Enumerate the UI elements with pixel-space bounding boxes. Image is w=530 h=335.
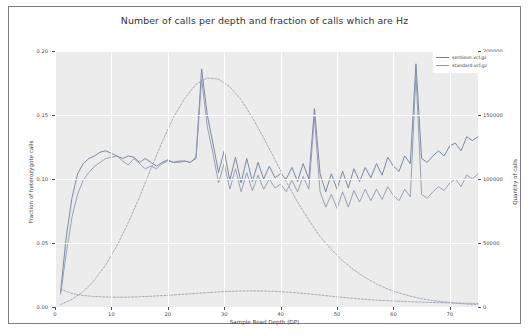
- y-tick-label-right: 150000: [483, 112, 503, 118]
- legend-line-icon: [436, 65, 449, 66]
- x-tick-label: 30: [221, 311, 228, 317]
- y-tick-label-left: 0.00: [36, 304, 48, 310]
- chart-figure: Number of calls per depth and fraction o…: [0, 0, 530, 335]
- y-tick-mark-right: [478, 243, 481, 244]
- x-tick-mark: [55, 307, 56, 310]
- gridline-horizontal: [55, 307, 478, 308]
- y-tick-mark-left: [52, 179, 55, 180]
- legend-item: standard.vcf.gz: [436, 62, 515, 69]
- y-tick-label-left: 0.20: [36, 48, 48, 54]
- x-tick-mark: [450, 307, 451, 310]
- legend-label: sentieon.vcf.gz: [452, 55, 487, 60]
- y-tick-label-left: 0.10: [36, 176, 48, 182]
- x-tick-mark: [393, 307, 394, 310]
- legend-label: standard.vcf.gz: [452, 63, 487, 68]
- y-axis-label-left: Fraction of heterozygote calls: [28, 122, 34, 242]
- y-tick-label-left: 0.15: [36, 112, 48, 118]
- y-tick-mark-left: [52, 115, 55, 116]
- legend-line-icon: [436, 57, 449, 58]
- figure-frame: Number of calls per depth and fraction o…: [8, 6, 521, 324]
- x-axis-label: Sample Read Depth (DP): [9, 319, 520, 325]
- x-tick-mark: [224, 307, 225, 310]
- x-tick-mark: [111, 307, 112, 310]
- y-tick-mark-right: [478, 307, 481, 308]
- x-tick-label: 20: [164, 311, 171, 317]
- x-tick-mark: [281, 307, 282, 310]
- x-tick-label: 70: [446, 311, 453, 317]
- y-tick-mark-left: [52, 307, 55, 308]
- x-tick-mark: [337, 307, 338, 310]
- y-axis-label-right: Quantity of calls: [512, 122, 518, 242]
- chart-legend: sentieon.vcf.gz standard.vcf.gz: [433, 52, 517, 73]
- legend-item: sentieon.vcf.gz: [436, 54, 515, 61]
- y-tick-mark-right: [478, 179, 481, 180]
- y-tick-label-right: 50000: [483, 240, 500, 246]
- series-line: [61, 289, 478, 303]
- y-tick-mark-right: [478, 115, 481, 116]
- series-line: [61, 74, 478, 294]
- gridline-horizontal: [55, 51, 478, 52]
- series-line: [61, 78, 478, 305]
- series-line: [61, 64, 478, 292]
- y-tick-mark-left: [52, 51, 55, 52]
- y-tick-label-right: 0: [483, 304, 486, 310]
- x-tick-label: 10: [108, 311, 115, 317]
- plot-area: [55, 51, 478, 307]
- gridline-horizontal: [55, 179, 478, 180]
- x-tick-label: 60: [390, 311, 397, 317]
- x-tick-label: 0: [53, 311, 56, 317]
- x-tick-label: 40: [277, 311, 284, 317]
- y-tick-mark-left: [52, 243, 55, 244]
- gridline-horizontal: [55, 243, 478, 244]
- y-tick-label-right: 100000: [483, 176, 503, 182]
- chart-title: Number of calls per depth and fraction o…: [9, 15, 520, 26]
- gridline-horizontal: [55, 115, 478, 116]
- y-tick-label-left: 0.05: [36, 240, 48, 246]
- x-tick-label: 50: [334, 311, 341, 317]
- x-tick-mark: [168, 307, 169, 310]
